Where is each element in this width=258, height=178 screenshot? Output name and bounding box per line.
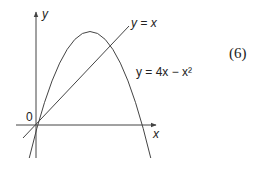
y-axis-label: y (41, 7, 49, 21)
x-axis-label: x (152, 127, 160, 141)
graph-diagram: y x 0 y = x y = 4x − x² (6) (0, 0, 258, 178)
parabola-curve (29, 32, 151, 159)
equation-number: (6) (229, 45, 247, 62)
line-label: y = x (130, 16, 158, 30)
parabola-label: y = 4x − x² (136, 65, 192, 79)
origin-label: 0 (26, 110, 33, 124)
